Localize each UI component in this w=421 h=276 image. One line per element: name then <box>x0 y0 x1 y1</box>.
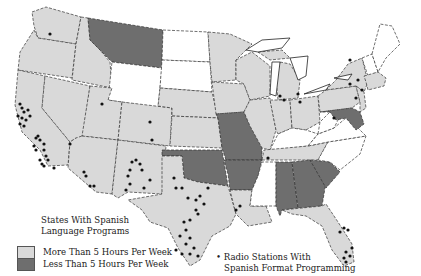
radio-station-dot <box>202 202 205 205</box>
state-new-mexico <box>112 140 166 198</box>
radio-station-dot <box>18 102 21 105</box>
radio-station-dot <box>34 148 37 151</box>
radio-station-dot <box>100 102 103 105</box>
radio-station-dot <box>20 106 23 109</box>
radio-station-dot <box>194 208 197 211</box>
radio-dot-icon: • <box>216 252 221 262</box>
state-south-dakota <box>160 60 212 92</box>
radio-station-dot <box>24 118 27 121</box>
radio-station-dot <box>186 196 189 199</box>
radio-station-dot <box>32 144 35 147</box>
radio-station-dot <box>338 230 341 233</box>
radio-station-dot <box>42 148 45 151</box>
radio-station-dot <box>142 186 145 189</box>
radio-station-dot <box>180 186 183 189</box>
radio-station-dot <box>348 82 351 85</box>
radio-station-dot <box>354 96 357 99</box>
radio-station-dot <box>148 120 151 123</box>
legend-title-line1: States With Spanish <box>41 215 129 226</box>
radio-station-dot <box>28 114 31 117</box>
state-kansas <box>170 116 222 148</box>
radio-station-dot <box>298 100 301 103</box>
radio-station-dot <box>128 182 131 185</box>
radio-station-dot <box>342 226 345 229</box>
radio-station-dot <box>138 162 141 165</box>
radio-station-dot <box>26 108 29 111</box>
state-iowa <box>212 82 250 114</box>
radio-station-dot <box>180 252 183 255</box>
radio-station-dot <box>192 246 195 249</box>
radio-station-dot <box>16 114 19 117</box>
swatch-less-than-5 <box>17 258 35 271</box>
radio-station-dot <box>38 138 41 141</box>
radio-station-dot <box>238 204 241 207</box>
radio-station-dot <box>134 158 137 161</box>
state-ohio <box>290 96 320 130</box>
radio-station-dot <box>174 248 177 251</box>
radio-station-dot <box>150 138 153 141</box>
radio-station-dot <box>22 124 25 127</box>
radio-station-dot <box>182 220 185 223</box>
lake-superior <box>246 38 290 52</box>
radio-station-dot <box>356 78 359 81</box>
radio-station-dot <box>174 186 177 189</box>
radio-station-dot <box>128 168 131 171</box>
state-maine <box>372 24 400 72</box>
radio-station-dot <box>282 98 285 101</box>
radio-station-dot <box>178 234 181 237</box>
radio-station-dot <box>184 228 187 231</box>
radio-station-dot <box>140 168 143 171</box>
radio-station-dot <box>126 174 129 177</box>
radio-station-dot <box>188 236 191 239</box>
legend-less-label: Less Than 5 Hours Per Week <box>43 259 169 270</box>
radio-station-dot <box>348 58 351 61</box>
radio-station-dot <box>44 154 47 157</box>
radio-station-dot <box>48 32 51 35</box>
radio-station-dot <box>332 116 335 119</box>
radio-station-dot <box>184 242 187 245</box>
legend-shading: More Than 5 Hours Per Week Less Than 5 H… <box>17 246 172 270</box>
radio-station-dot <box>92 184 95 187</box>
radio-station-dot <box>130 160 133 163</box>
legend-title-line2: Language Programs <box>41 226 129 237</box>
radio-station-dot <box>38 158 41 161</box>
radio-station-dot <box>68 142 71 145</box>
radio-station-dot <box>42 164 45 167</box>
legend-radio-line1: Radio Stations With <box>224 252 311 262</box>
radio-station-dot <box>296 92 299 95</box>
radio-station-dot <box>360 88 363 91</box>
radio-station-dot <box>124 188 127 191</box>
legend-radio-line2: Spanish Format Programming <box>216 263 356 274</box>
radio-station-dot <box>18 122 21 125</box>
radio-station-dot <box>52 166 55 169</box>
radio-station-dot <box>34 136 37 139</box>
radio-station-dot <box>84 174 87 177</box>
radio-station-dot <box>350 246 353 249</box>
radio-station-dot <box>188 218 191 221</box>
radio-station-dot <box>346 228 349 231</box>
radio-station-dot <box>46 158 49 161</box>
state-colorado <box>118 102 172 146</box>
radio-station-dot <box>278 94 281 97</box>
radio-station-dot <box>22 110 25 113</box>
radio-station-dot <box>196 254 199 257</box>
radio-station-dot <box>82 170 85 173</box>
legend-more-label: More Than 5 Hours Per Week <box>43 247 172 258</box>
radio-station-dot <box>266 156 269 159</box>
legend-radio: • Radio Stations With Spanish Format Pro… <box>216 252 356 274</box>
radio-station-dot <box>88 184 91 187</box>
radio-station-dot <box>198 194 201 197</box>
radio-station-dot <box>194 198 197 201</box>
radio-station-dot <box>234 208 237 211</box>
radio-station-dot <box>196 212 199 215</box>
radio-station-dot <box>172 176 175 179</box>
radio-station-dot <box>148 178 151 181</box>
state-north-dakota <box>162 30 210 62</box>
radio-station-dot <box>42 142 45 145</box>
legend-title: States With Spanish Language Programs <box>41 215 129 237</box>
radio-station-dot <box>20 116 23 119</box>
legend-row-less: Less Than 5 Hours Per Week <box>17 258 172 270</box>
legend-row-more: More Than 5 Hours Per Week <box>17 246 172 258</box>
radio-station-dot <box>206 186 209 189</box>
radio-station-dot <box>188 252 191 255</box>
